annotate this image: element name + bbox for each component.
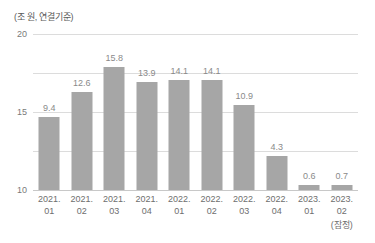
bar-slot: 0.7 (326, 34, 359, 190)
x-axis-label: 2022.01 (163, 193, 196, 217)
x-label-quarter: 02 (196, 205, 229, 217)
bar-value-label: 15.8 (105, 53, 123, 63)
bar[interactable] (331, 185, 352, 190)
x-axis-label: 2023.01 (293, 193, 326, 217)
bar-slot: 13.9 (131, 34, 164, 190)
x-label-quarter: 04 (131, 205, 164, 217)
bar-slot: 4.3 (261, 34, 294, 190)
x-label-quarter: 01 (163, 205, 196, 217)
y-axis-tick: 20 (17, 29, 27, 39)
x-label-quarter: 02 (326, 205, 359, 217)
bar[interactable] (266, 156, 287, 190)
x-label-year: 2021. (131, 193, 164, 205)
bar[interactable] (71, 92, 92, 190)
bar-value-label: 4.3 (270, 142, 283, 152)
x-label-note: (잠정) (326, 219, 359, 231)
x-axis-label: 2021.04 (131, 193, 164, 217)
x-label-quarter: 01 (293, 205, 326, 217)
x-label-year: 2022. (261, 193, 294, 205)
y-axis-tick: 10 (17, 185, 27, 195)
bar[interactable] (136, 82, 157, 190)
x-label-quarter: 03 (98, 205, 131, 217)
x-axis-label: 2021.03 (98, 193, 131, 217)
bar-value-label: 0.6 (303, 171, 316, 181)
x-label-year: 2021. (33, 193, 66, 205)
unit-label: (조 원, 연결기준) (14, 10, 73, 23)
bar-slot: 0.6 (293, 34, 326, 190)
bar[interactable] (234, 105, 255, 190)
x-label-quarter: 02 (66, 205, 99, 217)
x-axis-label: 2022.04 (261, 193, 294, 217)
bar-value-label: 13.9 (138, 68, 156, 78)
x-label-year: 2021. (66, 193, 99, 205)
bar-slot: 12.6 (66, 34, 99, 190)
bar-value-label: 14.1 (170, 66, 188, 76)
x-label-year: 2023. (326, 193, 359, 205)
bar-series: 9.412.615.813.914.114.110.94.30.60.7 (33, 34, 358, 190)
bar-value-label: 12.6 (73, 78, 91, 88)
x-axis-label: 2022.02 (196, 193, 229, 217)
x-axis-label: 2023.02(잠정) (326, 193, 359, 231)
bar[interactable] (299, 185, 320, 190)
bar-slot: 9.4 (33, 34, 66, 190)
bar-slot: 14.1 (163, 34, 196, 190)
plot-area: 05101520 9.412.615.813.914.114.110.94.30… (33, 34, 358, 190)
x-label-quarter: 03 (228, 205, 261, 217)
x-label-quarter: 04 (261, 205, 294, 217)
bar-chart: (조 원, 연결기준) 05101520 9.412.615.813.914.1… (0, 0, 375, 243)
bar-value-label: 14.1 (203, 66, 221, 76)
x-label-year: 2022. (163, 193, 196, 205)
x-label-year: 2021. (98, 193, 131, 205)
bar-value-label: 0.7 (335, 171, 348, 181)
x-axis-label: 2021.02 (66, 193, 99, 217)
bar-slot: 14.1 (196, 34, 229, 190)
bar-slot: 10.9 (228, 34, 261, 190)
bar[interactable] (169, 80, 190, 190)
y-axis-tick: 15 (17, 107, 27, 117)
x-axis-label: 2022.03 (228, 193, 261, 217)
x-label-year: 2022. (228, 193, 261, 205)
bar[interactable] (39, 117, 60, 190)
x-label-year: 2022. (196, 193, 229, 205)
bar[interactable] (104, 67, 125, 190)
x-axis-label: 2021.01 (33, 193, 66, 217)
bar-slot: 15.8 (98, 34, 131, 190)
bar[interactable] (201, 80, 222, 190)
x-label-year: 2023. (293, 193, 326, 205)
x-axis-labels: 2021.012021.022021.032021.042022.012022.… (33, 193, 358, 243)
bar-value-label: 9.4 (43, 103, 56, 113)
x-label-quarter: 01 (33, 205, 66, 217)
gridline-0: 0 (33, 190, 358, 191)
bar-value-label: 10.9 (235, 91, 253, 101)
